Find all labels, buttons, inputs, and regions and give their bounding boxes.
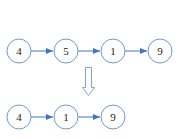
node-9: 9 [148, 39, 172, 63]
node-1: 1 [54, 105, 78, 129]
down-arrow-icon [83, 68, 95, 96]
node-label: 9 [110, 111, 116, 123]
node-label: 9 [157, 45, 163, 57]
node-label: 1 [110, 45, 116, 57]
linked-list-deletion-diagram: 4 5 1 9 4 1 9 [0, 0, 179, 139]
before-list: 4 5 1 9 [7, 39, 172, 63]
node-label: 4 [16, 111, 22, 123]
node-4: 4 [7, 39, 31, 63]
after-list: 4 1 9 [7, 105, 125, 129]
node-1: 1 [101, 39, 125, 63]
node-label: 1 [63, 111, 69, 123]
node-label: 4 [16, 45, 22, 57]
node-4: 4 [7, 105, 31, 129]
node-9: 9 [101, 105, 125, 129]
node-5: 5 [54, 39, 78, 63]
node-label: 5 [63, 45, 69, 57]
